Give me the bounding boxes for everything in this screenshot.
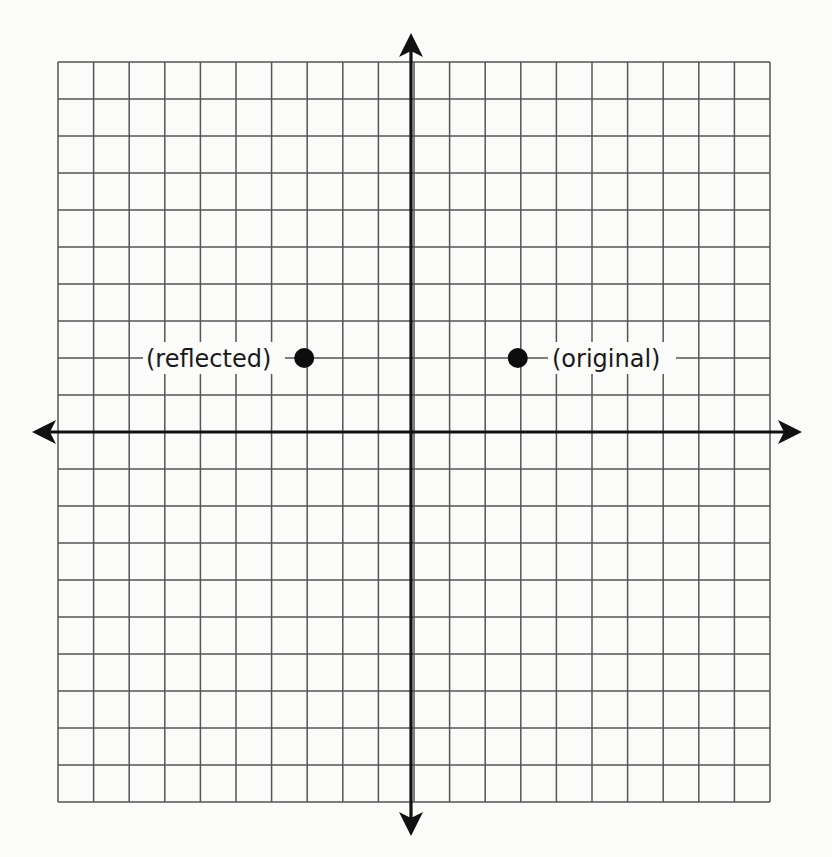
axes: [32, 33, 802, 836]
reflected-point-label: (reflected): [146, 345, 271, 373]
coordinate-plane: (reflected) (original): [0, 0, 832, 857]
original-point: [508, 348, 528, 368]
reflected-point: [294, 348, 314, 368]
original-point-label: (original): [552, 345, 660, 373]
coordinate-plane-diagram: (reflected) (original): [0, 0, 832, 857]
